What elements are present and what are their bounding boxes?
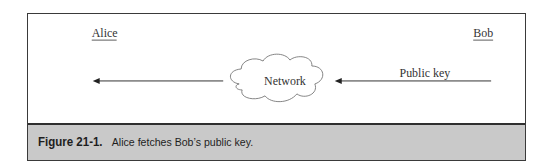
figure-number: Figure 21-1. bbox=[38, 135, 103, 149]
figure-caption: Figure 21-1.Alice fetches Bob’s public k… bbox=[38, 135, 253, 149]
alice-label: Alice bbox=[92, 26, 118, 40]
diagram-canvas: Alice Bob Network Public key bbox=[28, 14, 525, 123]
arrow-network-to-alice-icon bbox=[93, 78, 223, 84]
figure-frame: Alice Bob Network Public key Figure 21-1… bbox=[27, 13, 526, 161]
public-key-label: Public key bbox=[400, 66, 451, 80]
network-label: Network bbox=[264, 74, 306, 88]
bob-label: Bob bbox=[473, 26, 493, 40]
caption-text: Alice fetches Bob’s public key. bbox=[112, 136, 253, 148]
caption-bar: Figure 21-1.Alice fetches Bob’s public k… bbox=[28, 123, 525, 160]
